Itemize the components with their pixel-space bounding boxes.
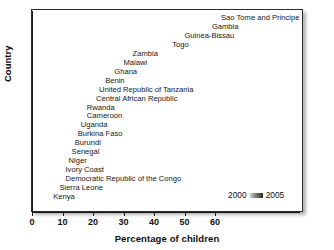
bar-label: Sierra Leone: [59, 185, 102, 191]
bar-row: [35, 97, 93, 103]
bar-row: [35, 52, 130, 58]
bar-label: Togo: [172, 42, 188, 48]
bar-row: [50, 79, 102, 85]
bar-row: [35, 141, 72, 147]
x-axis-line: [32, 212, 300, 213]
bar-label: Niger: [69, 158, 87, 164]
x-axis-tick-label: 30: [118, 217, 128, 227]
x-axis-title: Percentage of children: [0, 233, 334, 244]
chart-figure: Sao Tome and PrincipeGambiaGuinea-Bissau…: [0, 0, 334, 250]
bar-label: Gambia: [212, 24, 239, 30]
bar-label: Uganda: [81, 122, 108, 128]
bar-label: Central African Republic: [96, 96, 177, 102]
bar-row: [41, 132, 75, 138]
x-axis-tick: [124, 212, 125, 216]
x-axis-tick-label: 50: [179, 217, 189, 227]
bar-row: [38, 150, 69, 156]
bar-row: [38, 123, 78, 129]
plot-area: Sao Tome and PrincipeGambiaGuinea-Bissau…: [31, 9, 303, 212]
bar-label: United Republic of Tanzania: [99, 87, 193, 93]
bar-label: Democratic Republic of the Congo: [66, 176, 182, 182]
x-axis-tick: [32, 212, 33, 216]
x-axis-tick: [185, 212, 186, 216]
bar-row: [35, 114, 84, 120]
bar-row: [84, 34, 182, 40]
bar-label: Sao Tome and Principe: [221, 15, 299, 21]
bar-row: [35, 177, 62, 183]
bar-label: Rwanda: [87, 105, 115, 111]
bar-label: Burundi: [75, 140, 101, 146]
bar-row: [41, 106, 84, 112]
bar-row: [35, 168, 62, 174]
gradient-swatch-icon: [250, 193, 263, 198]
x-axis-tick: [63, 212, 64, 216]
y-axis-title: Country: [2, 46, 13, 82]
chart-legend: 2000 2005: [228, 190, 284, 200]
bar-row: [38, 61, 120, 67]
bar-row: [35, 159, 66, 165]
bar-row: [41, 195, 50, 201]
bar-label: Kenya: [53, 194, 75, 200]
x-axis-tick-label: 60: [210, 217, 220, 227]
x-axis-tick: [154, 212, 155, 216]
bar-label: Cameroon: [87, 113, 122, 119]
legend-label-2000: 2000: [228, 190, 247, 200]
bar-label: Senegal: [72, 149, 100, 155]
x-axis-tick-label: 10: [57, 217, 67, 227]
bar-row: [35, 88, 96, 94]
x-axis-tick-label: 0: [29, 217, 34, 227]
x-axis-tick-label: 20: [88, 217, 98, 227]
bar-row: [117, 16, 218, 22]
bar-label: Malawi: [123, 60, 147, 66]
legend-label-2005: 2005: [266, 190, 285, 200]
bar-label: Zambia: [133, 51, 158, 57]
x-axis-tick: [215, 212, 216, 216]
bar-row: [41, 70, 111, 76]
bar-label: Guinea-Bissau: [184, 33, 234, 39]
y-axis-line: [32, 11, 33, 213]
bar-label: Ghana: [114, 69, 137, 75]
bar-label: Ivory Coast: [66, 167, 104, 173]
x-axis-tick-label: 40: [149, 217, 159, 227]
x-axis-tick: [93, 212, 94, 216]
bar-label: Benin: [105, 78, 124, 84]
bar-label: Burkina Faso: [78, 131, 123, 137]
bar-row: [59, 43, 169, 49]
